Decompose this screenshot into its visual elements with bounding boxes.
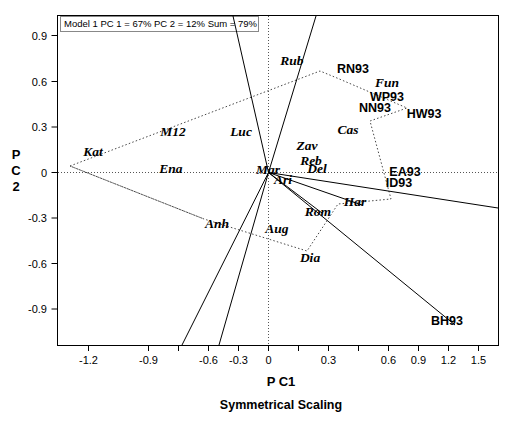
- y-tick-label: -0.9: [28, 303, 47, 315]
- sample-label-ari: Ari: [273, 172, 292, 187]
- sample-label-fun: Fun: [374, 75, 399, 90]
- species-label-nn93: NN93: [359, 101, 391, 115]
- y-tick-label: 0.6: [32, 76, 47, 88]
- species-label-rn93: RN93: [337, 62, 369, 76]
- x-tick-label: 0.3: [321, 354, 336, 366]
- y-axis-title-p: P: [12, 147, 21, 162]
- y-tick-label: 0.9: [32, 30, 47, 42]
- sample-label-zav: Zav: [296, 138, 319, 153]
- species-label-id93: ID93: [386, 176, 412, 190]
- x-tick-label: 0.9: [411, 354, 426, 366]
- model-annotation-text: Model 1 PC 1 = 67% PC 2 = 12% Sum = 79%: [64, 18, 258, 29]
- sample-label-har: Har: [343, 194, 367, 209]
- sample-label-ena: Ena: [158, 161, 183, 176]
- sample-label-rub: Rub: [279, 53, 304, 68]
- sample-label-rom: Rom: [304, 204, 331, 219]
- sample-label-m12: M12: [159, 124, 186, 139]
- x-tick-label: 0.6: [381, 354, 396, 366]
- species-label-hw93: HW93: [407, 107, 442, 121]
- sample-label-anh: Anh: [204, 216, 229, 231]
- sample-label-luc: Luc: [229, 124, 252, 139]
- x-tick-label: 1.5: [471, 354, 486, 366]
- x-tick-label: -1.2: [79, 354, 98, 366]
- x-tick-label: -0.9: [139, 354, 158, 366]
- x-axis-title: P C1: [267, 374, 296, 389]
- x-tick-label: -0.6: [199, 354, 218, 366]
- sample-label-dia: Dia: [299, 250, 321, 265]
- sample-label-kat: Kat: [82, 144, 104, 159]
- x-tick-label: -0.3: [229, 354, 248, 366]
- sample-label-del: Del: [306, 161, 327, 176]
- x-tick-label: 0: [265, 354, 271, 366]
- x-tick-label: 1.2: [441, 354, 456, 366]
- sample-label-cas: Cas: [337, 122, 358, 137]
- pca-biplot: Model 1 PC 1 = 67% PC 2 = 12% Sum = 79% …: [0, 0, 526, 424]
- y-tick-label: 0.3: [32, 121, 47, 133]
- y-axis-title-2: 2: [12, 179, 19, 194]
- y-axis-title-c: C: [11, 163, 21, 178]
- y-tick-label: 0: [41, 167, 47, 179]
- y-tick-label: -0.6: [28, 258, 47, 270]
- sample-label-aug: Aug: [264, 221, 289, 236]
- y-tick-label: -0.3: [28, 212, 47, 224]
- chart-subtitle: Symmetrical Scaling: [220, 398, 342, 412]
- species-label-bh93: BH93: [431, 314, 463, 328]
